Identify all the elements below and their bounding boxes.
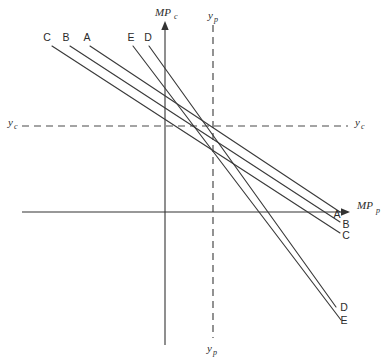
y-p-bottom-label: y p: [206, 342, 217, 357]
curve-line-B: [70, 46, 340, 222]
curve-top-label-E: E: [127, 31, 134, 43]
y-p-top-label: y p: [207, 9, 218, 24]
diagram-canvas: C B A E D A B C D E MP c MP p y p y p: [0, 0, 390, 359]
y-c-left-label: y c: [7, 116, 18, 131]
curve-line-A: [90, 46, 340, 212]
y-p-top-label-main: y: [207, 9, 213, 21]
y-c-left-label-main: y: [7, 116, 13, 128]
curve-end-label-E: E: [340, 314, 347, 326]
diagram-svg: C B A E D A B C D E MP c MP p y p y p: [0, 0, 390, 359]
y-p-bottom-label-main: y: [206, 342, 212, 354]
curve-end-label-D: D: [340, 301, 348, 313]
curve-end-label-C: C: [342, 229, 350, 241]
y-c-right-label-sub: c: [361, 122, 365, 131]
y-c-right-label-main: y: [354, 116, 360, 128]
mp-p-axis-label-sub: p: [375, 206, 380, 215]
mp-c-axis-label-main: MP: [154, 6, 171, 18]
curve-end-label-A: A: [333, 208, 340, 220]
curve-line-D: [149, 46, 336, 307]
mp-c-axis-label: MP c: [154, 6, 178, 21]
mp-c-axis-label-sub: c: [174, 12, 178, 21]
curve-group: [52, 46, 341, 320]
y-p-bottom-label-sub: p: [212, 348, 217, 357]
mp-p-axis-arrow: [341, 208, 350, 215]
mp-c-axis-arrow: [161, 21, 168, 30]
curve-top-label-A: A: [83, 31, 90, 43]
curve-top-label-B: B: [62, 31, 69, 43]
curve-line-C: [52, 46, 340, 233]
y-c-left-label-sub: c: [14, 122, 18, 131]
curve-top-label-C: C: [43, 31, 51, 43]
mp-p-axis-label-main: MP: [356, 199, 373, 211]
y-p-top-label-sub: p: [213, 15, 218, 24]
mp-p-axis-label: MP p: [356, 199, 380, 215]
curve-top-label-D: D: [144, 31, 152, 43]
y-c-right-label: y c: [354, 116, 365, 131]
curve-line-E: [133, 46, 341, 320]
